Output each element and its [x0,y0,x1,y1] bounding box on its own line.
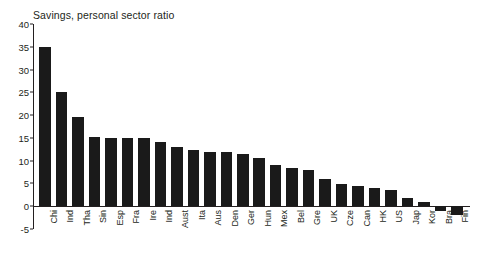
x-axis-tick-label: Ind [65,210,75,223]
y-axis-tick-label: 15 [18,132,29,143]
x-axis-tick-label: Tha [82,210,92,226]
y-axis-tick-mark [30,46,33,47]
y-axis-tick-mark [30,137,33,138]
x-axis-tick-label: Cze [345,210,355,226]
x-axis-tick-label: Esp [115,210,125,226]
y-axis-tick-mark [30,206,33,207]
x-axis-tick-label: Can [362,210,372,227]
bar [385,190,397,206]
x-axis-tick-label: Ita [197,210,207,220]
x-axis-tick-label: Den [230,210,240,227]
y-axis-tick-label: 40 [18,19,29,30]
bar [138,138,150,206]
x-axis-tick-label: Jap [411,210,421,225]
bar [72,117,84,206]
bar [286,168,298,207]
bar [56,92,68,206]
bar [237,154,249,206]
y-axis-tick-label: 30 [18,64,29,75]
x-axis-tick-label: Aust [180,210,190,228]
x-axis-tick-label: Aus [213,210,223,226]
bar [188,150,200,206]
x-axis-tick-label: Bel [296,210,306,223]
bar [336,184,348,206]
bar [418,202,430,207]
bar [89,137,101,206]
y-axis-tick-label: 35 [18,41,29,52]
x-axis-tick-label: Chi [49,210,59,224]
bar [39,47,51,206]
bar [253,158,265,206]
x-axis-tick-label: Fra [131,210,141,224]
chart-title: Savings, personal sector ratio [33,9,174,21]
y-axis-tick-mark [30,92,33,93]
y-axis-tick-labels: 4035302520151050-5 [0,0,29,260]
y-axis-tick-label: 0 [24,201,29,212]
bar [221,152,233,206]
bar [352,186,364,207]
x-axis-tick-label: Ger [246,210,256,225]
bar [402,198,414,206]
x-axis-tick-label: US [394,210,404,223]
y-axis-tick-label: -5 [21,224,29,235]
y-axis-tick-label: 20 [18,110,29,121]
x-axis-tick-label: UK [329,210,339,223]
bar [105,138,117,206]
x-axis-tick-label: Gre [312,210,322,225]
x-axis-tick-label: HK [378,210,388,223]
x-axis-tick-label: Ire [148,210,158,221]
y-axis-tick-mark [30,24,33,25]
y-axis-tick-label: 10 [18,155,29,166]
x-axis-tick-label: Mex [279,210,289,227]
x-axis-tick-label: Kor [427,210,437,224]
x-axis-tick-label: Ind [164,210,174,223]
bar [155,142,167,206]
bar [369,188,381,206]
x-axis-tick-label: Hun [263,210,273,227]
bar [122,138,134,206]
y-axis-tick-mark [30,115,33,116]
bar [303,170,315,206]
y-axis-tick-label: 5 [24,178,29,189]
x-axis-tick-label: Fin [460,210,470,223]
y-axis-tick-mark [30,183,33,184]
y-axis-tick-mark [30,160,33,161]
x-axis-tick-label: Sin [98,210,108,223]
bar [204,152,216,207]
bar [319,179,331,206]
y-axis-tick-mark [30,229,33,230]
y-axis-tick-label: 25 [18,87,29,98]
bar [270,165,282,206]
bar [171,147,183,206]
chart-container: Savings, personal sector ratio 403530252… [0,0,480,260]
y-axis-tick-mark [30,69,33,70]
